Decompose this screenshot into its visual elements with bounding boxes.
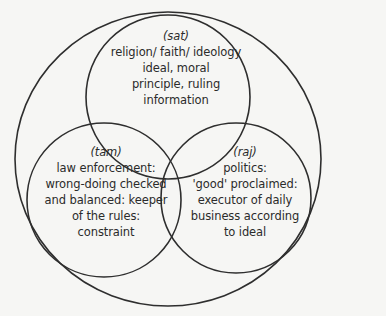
label-sat-line: ideal, moral: [111, 60, 241, 76]
label-tam-line: of the rules:: [45, 208, 168, 224]
label-sat-line: principle, ruling: [111, 76, 241, 92]
label-raj: (raj) politics: 'good' proclaimed: execu…: [191, 144, 299, 240]
label-raj-line: business according: [191, 208, 299, 224]
label-raj-line: politics:: [191, 160, 299, 176]
label-sat-tag: (sat): [163, 29, 189, 43]
label-tam-line: law enforcement:: [45, 160, 168, 176]
label-tam-line: and balanced: keeper: [45, 192, 168, 208]
label-raj-line: executor of daily: [191, 192, 299, 208]
label-tam-line: wrong-doing checked: [45, 176, 168, 192]
label-tam-line: constraint: [45, 224, 168, 240]
label-sat-line: religion/ faith/ ideology: [111, 44, 241, 60]
label-raj-tag: (raj): [233, 145, 256, 159]
label-sat: (sat) religion/ faith/ ideology ideal, m…: [111, 28, 241, 108]
label-tam: (tam) law enforcement: wrong-doing check…: [45, 144, 168, 240]
label-sat-line: information: [111, 92, 241, 108]
label-tam-tag: (tam): [90, 145, 121, 159]
label-raj-line: to ideal: [191, 224, 299, 240]
label-raj-line: 'good' proclaimed:: [191, 176, 299, 192]
